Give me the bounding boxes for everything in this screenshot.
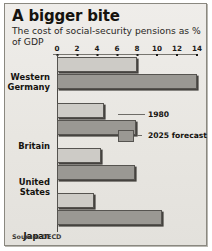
- bar-1980: [57, 57, 137, 72]
- legend-label-1980: 1980: [148, 109, 169, 121]
- legend-box-swatch: [118, 130, 134, 142]
- legend-item-1980: 1980: [118, 109, 208, 121]
- legend-item-2025: 2025 forecast: [118, 130, 208, 142]
- x-tick-6: 6: [114, 45, 119, 56]
- x-tick-label: 2: [74, 45, 79, 53]
- x-tick-4: 4: [94, 45, 99, 56]
- chart-card: A bigger bite The cost of social-securit…: [4, 3, 207, 246]
- chart-title: A bigger bite: [12, 8, 120, 24]
- bar-2025-forecast: [57, 210, 162, 225]
- category-label-western-germany: WesternGermany: [0, 73, 50, 92]
- x-tick-label: 12: [172, 45, 182, 53]
- legend-line-swatch: [118, 114, 145, 115]
- chart-source: Source: OECD: [12, 233, 61, 241]
- bar-group: Japan: [53, 193, 202, 233]
- x-tick-label: 8: [134, 45, 139, 53]
- x-tick-12: 12: [172, 45, 182, 56]
- category-label-britain: Britain: [0, 142, 50, 152]
- bar-group: UnitedStates: [53, 148, 202, 188]
- x-tick-14: 14: [192, 45, 202, 56]
- x-tick-dot: [96, 54, 98, 56]
- x-tick-label: 4: [94, 45, 99, 53]
- x-tick-dot: [136, 54, 138, 56]
- bar-1980: [57, 193, 94, 208]
- x-tick-label: 6: [114, 45, 119, 53]
- x-tick-10: 10: [152, 45, 162, 56]
- chart-inner: A bigger bite The cost of social-securit…: [5, 4, 206, 245]
- x-tick-2: 2: [74, 45, 79, 56]
- bar-1980: [57, 103, 104, 118]
- x-tick-label: 10: [152, 45, 162, 53]
- category-label-united-states: UnitedStates: [0, 178, 50, 197]
- bar-2025-forecast: [57, 74, 197, 89]
- x-tick-dot: [156, 54, 158, 56]
- x-tick-8: 8: [134, 45, 139, 56]
- legend-dash: [137, 135, 142, 136]
- bar-1980: [57, 148, 101, 163]
- x-tick-dot: [176, 54, 178, 56]
- bar-2025-forecast: [57, 165, 135, 180]
- x-tick-dot: [196, 54, 198, 56]
- bar-group: WesternGermany: [53, 57, 202, 97]
- x-tick-label: 14: [192, 45, 202, 53]
- x-tick-dot: [76, 54, 78, 56]
- x-tick-dot: [116, 54, 118, 56]
- legend-label-2025: 2025 forecast: [148, 130, 207, 142]
- x-tick-label: 0: [54, 45, 59, 53]
